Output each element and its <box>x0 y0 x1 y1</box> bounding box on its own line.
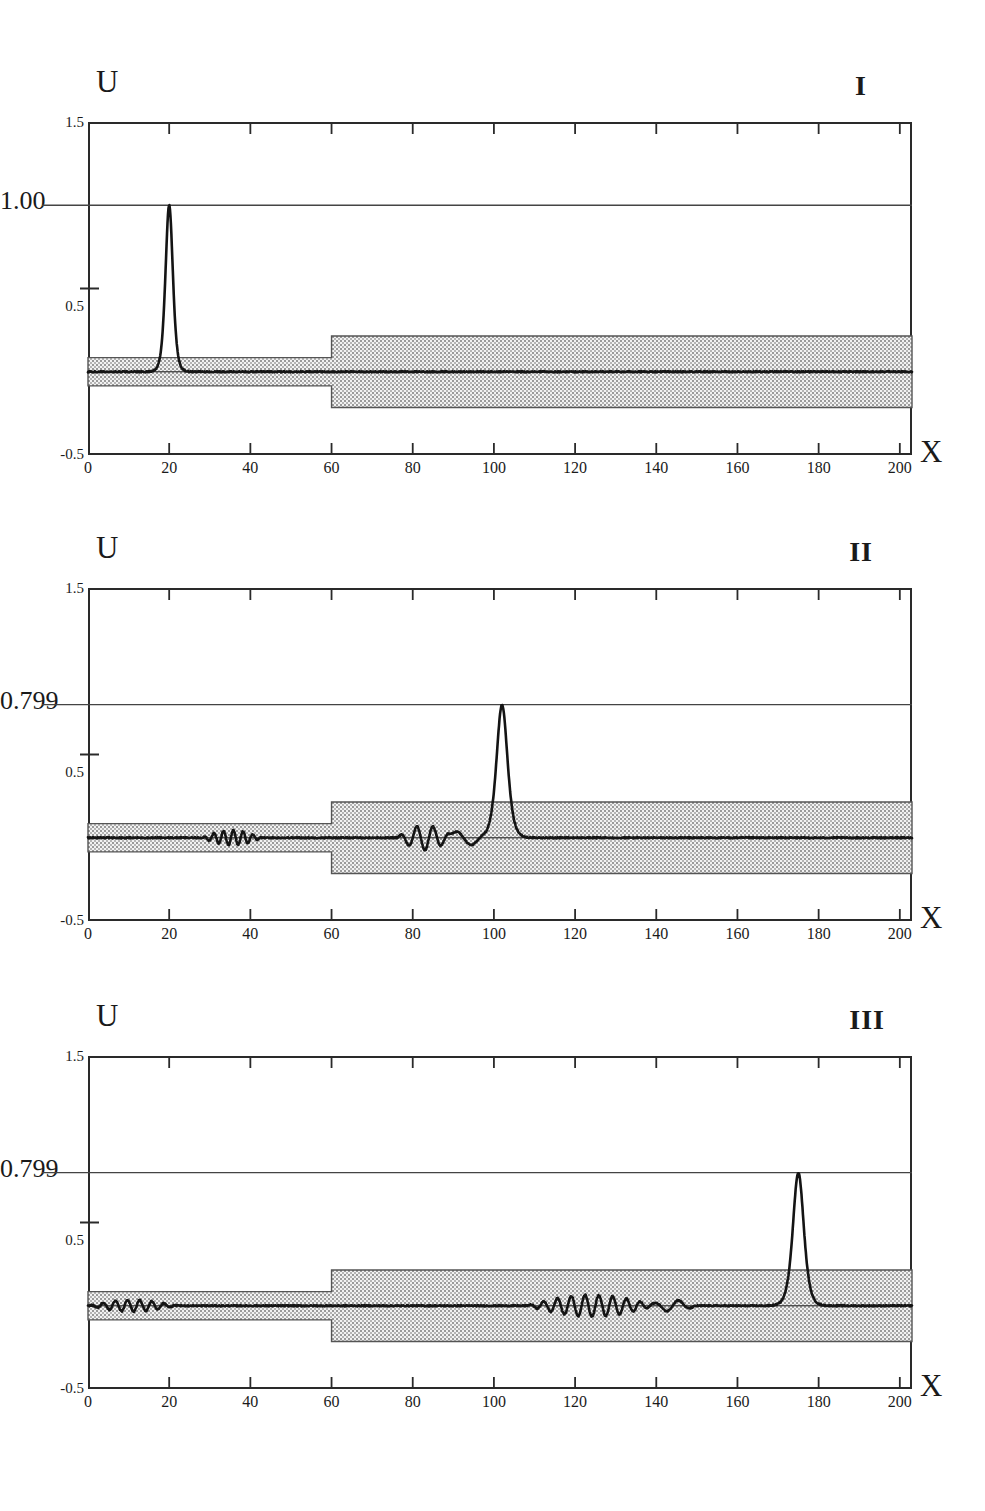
plot-canvas <box>0 526 985 956</box>
panel-ii: U X 1.5 0.5 -0.5 0.799 II 02040608010012… <box>0 526 985 956</box>
plot-canvas <box>0 994 985 1424</box>
plot-canvas <box>0 60 985 490</box>
panel-i: U X 1.5 0.5 -0.5 1.00 I 0204060801001201… <box>0 60 985 490</box>
panel-iii: U X 1.5 0.5 -0.5 0.799 III 0204060801001… <box>0 994 985 1424</box>
figure-root: U X 1.5 0.5 -0.5 1.00 I 0204060801001201… <box>0 0 985 1511</box>
